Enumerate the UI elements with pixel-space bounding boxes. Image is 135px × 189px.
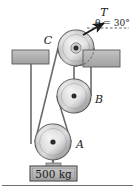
pulley-system-diagram: T θ = 30° C B A 500 kg: [0, 0, 135, 189]
figure-canvas: T θ = 30° C B A 500 kg: [0, 0, 135, 189]
pulley-c-label: C: [44, 34, 53, 47]
pulley-a-label: A: [75, 138, 84, 151]
pulley-b-label: B: [94, 93, 103, 106]
right-support-block: [83, 50, 120, 67]
pulley-a: [35, 124, 71, 160]
pulley-b: [57, 79, 91, 113]
angle-label: θ = 30°: [95, 18, 130, 28]
mass-label: 500 kg: [35, 168, 72, 180]
left-support-block: [12, 50, 49, 64]
